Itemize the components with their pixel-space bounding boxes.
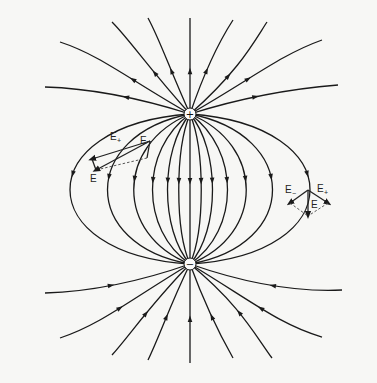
right-e-plus-label: E bbox=[317, 183, 324, 194]
arrowhead-icon bbox=[199, 178, 204, 185]
left-e-label: E bbox=[90, 173, 97, 184]
left-e-plus-sub: + bbox=[117, 137, 121, 144]
left-e-plus-label: E bbox=[110, 131, 117, 142]
right-e-label: E bbox=[311, 199, 318, 210]
arrowhead-icon bbox=[132, 176, 137, 183]
positive-sign-icon: + bbox=[186, 109, 194, 120]
arrowhead-icon bbox=[70, 170, 76, 177]
arrowhead-icon bbox=[257, 305, 265, 312]
field-line bbox=[70, 114, 190, 264]
left-e-minus-label: E bbox=[140, 135, 147, 146]
left-parallelogram-edge bbox=[96, 158, 147, 170]
field-line bbox=[153, 114, 191, 264]
arrowhead-icon bbox=[188, 178, 193, 185]
field-line bbox=[190, 264, 322, 337]
field-line bbox=[190, 264, 342, 290]
positive-charge: + bbox=[184, 108, 196, 120]
field-line bbox=[179, 114, 190, 264]
right-vector-construction: E − E + E bbox=[285, 183, 328, 216]
arrowhead-icon bbox=[225, 177, 230, 184]
right-e-plus-sub: + bbox=[324, 189, 328, 196]
arrowhead-icon bbox=[304, 170, 310, 177]
negative-sign-icon: − bbox=[186, 259, 194, 270]
field-line bbox=[60, 264, 190, 338]
field-lines bbox=[45, 18, 342, 363]
arrowhead-icon bbox=[243, 176, 248, 183]
arrowhead-icon bbox=[188, 68, 193, 75]
field-line bbox=[148, 264, 190, 360]
arrowhead-icon bbox=[210, 178, 215, 185]
arrowhead-icon bbox=[116, 304, 124, 311]
right-e-minus-sub: − bbox=[292, 190, 296, 197]
field-lines-canvas: E + E − E E − E + E +− bbox=[0, 0, 377, 383]
arrowhead-icon bbox=[129, 76, 137, 83]
left-e-minus-sub: − bbox=[147, 138, 151, 145]
arrowhead-icon bbox=[208, 313, 215, 321]
arrowhead-icon bbox=[244, 75, 252, 82]
field-line bbox=[190, 20, 233, 114]
field-line bbox=[190, 114, 310, 264]
field-line bbox=[112, 264, 190, 355]
field-line bbox=[190, 22, 267, 114]
field-line bbox=[190, 114, 228, 264]
left-parallelogram-edge-2 bbox=[92, 159, 96, 170]
arrowhead-icon bbox=[168, 67, 175, 75]
field-line bbox=[190, 40, 322, 114]
arrowhead-icon bbox=[188, 315, 193, 322]
field-line bbox=[190, 264, 233, 358]
right-e-minus-label: E bbox=[285, 184, 292, 195]
field-line bbox=[190, 114, 201, 264]
arrowhead-icon bbox=[203, 67, 210, 75]
field-line bbox=[112, 22, 190, 114]
dipole-field-diagram: E + E − E E − E + E +− bbox=[0, 0, 377, 383]
arrowhead-icon bbox=[165, 178, 170, 185]
field-line bbox=[45, 264, 190, 293]
field-line bbox=[45, 87, 190, 114]
field-line bbox=[190, 114, 246, 264]
field-line bbox=[148, 18, 190, 114]
arrowhead-icon bbox=[176, 178, 181, 185]
arrowhead-icon bbox=[163, 313, 170, 321]
arrowhead-icon bbox=[150, 177, 155, 184]
negative-charge: − bbox=[184, 258, 196, 270]
field-line bbox=[190, 85, 338, 114]
field-line bbox=[190, 264, 272, 358]
field-line bbox=[60, 42, 190, 114]
